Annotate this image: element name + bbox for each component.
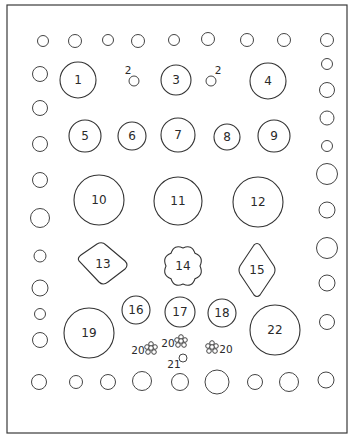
feature-22: 22	[250, 305, 300, 355]
perimeter-circle	[321, 34, 334, 47]
flower-cluster-20b: 20	[161, 335, 187, 349]
perimeter-circle	[103, 35, 114, 46]
perimeter-circle	[132, 35, 145, 48]
feature-label: 8	[223, 130, 231, 144]
feature-label: 18	[214, 306, 229, 320]
feature-7: 7	[161, 118, 195, 152]
feature-8: 8	[214, 124, 240, 150]
feature-17: 17	[165, 297, 195, 327]
feature-label: 11	[170, 194, 185, 208]
feature-label: 14	[175, 259, 190, 273]
feature-label: 2	[125, 64, 132, 76]
feature-circle	[206, 76, 216, 86]
perimeter-circle	[318, 372, 334, 388]
feature-1: 1	[60, 62, 96, 98]
perimeter-circle	[317, 164, 338, 185]
feature-12: 12	[233, 177, 283, 227]
feature-label: 16	[128, 303, 143, 317]
perimeter-circle	[320, 315, 335, 330]
feature-label: 19	[81, 326, 96, 340]
feature-circle	[129, 76, 139, 86]
perimeter-circle	[69, 35, 82, 48]
feature-label: 9	[270, 129, 278, 143]
perimeter-circle	[320, 111, 334, 125]
perimeter-circle	[205, 370, 229, 394]
perimeter-circle	[33, 67, 48, 82]
feature-18: 18	[208, 299, 236, 327]
perimeter-circle	[101, 375, 116, 390]
feature-label: 7	[174, 128, 182, 142]
perimeter-circle	[31, 209, 50, 228]
perimeter-circle	[35, 309, 46, 320]
feature-label: 20	[219, 343, 232, 355]
feature-label: 21	[167, 358, 180, 370]
perimeter-circle	[38, 36, 49, 47]
perimeter-circle	[319, 202, 335, 218]
perimeter-circle	[33, 101, 48, 116]
perimeter-circle	[33, 137, 48, 152]
feature-5: 5	[69, 120, 101, 152]
feature-11: 11	[154, 177, 202, 225]
diagram-canvas: 1232456789101112161718192122 131415 2020…	[0, 0, 363, 446]
flower-icon	[179, 339, 184, 344]
perimeter-circle	[32, 375, 47, 390]
feature-label: 13	[95, 257, 110, 271]
site-plan-diagram: 1232456789101112161718192122 131415 2020…	[0, 0, 363, 446]
feature-label: 12	[250, 195, 265, 209]
feature-label: 6	[128, 129, 136, 143]
feature-16: 16	[122, 296, 150, 324]
perimeter-circle	[202, 33, 215, 46]
perimeter-circle	[322, 59, 333, 70]
perimeter-circle	[32, 280, 48, 296]
feature-6: 6	[118, 122, 146, 150]
perimeter-circle	[278, 34, 291, 47]
feature-label: 20	[161, 337, 174, 349]
flower-cluster-20c: 20	[206, 341, 233, 355]
perimeter-circle	[33, 173, 48, 188]
flower-icon	[149, 346, 154, 351]
perimeter-circle	[33, 333, 48, 348]
perimeter-circle	[172, 374, 189, 391]
perimeter-circle	[169, 35, 180, 46]
feature-10: 10	[74, 175, 124, 225]
perimeter-circle	[70, 376, 83, 389]
feature-label: 10	[91, 193, 106, 207]
perimeter-circle	[133, 372, 152, 391]
feature-4: 4	[250, 63, 286, 99]
flower-icon	[210, 345, 215, 350]
feature-19: 19	[64, 308, 114, 358]
feature-label: 5	[81, 129, 89, 143]
feature-label: 15	[249, 263, 264, 277]
perimeter-circle	[241, 34, 254, 47]
feature-label: 2	[215, 64, 222, 76]
feature-label: 17	[172, 305, 187, 319]
feature-label: 22	[267, 323, 282, 337]
perimeter-circle	[317, 238, 338, 259]
perimeter-circle	[34, 250, 46, 262]
feature-label: 3	[172, 73, 180, 87]
perimeter-circle	[320, 83, 335, 98]
feature-label: 1	[74, 73, 82, 87]
perimeter-circle	[280, 373, 299, 392]
feature-3: 3	[161, 65, 191, 95]
feature-label: 4	[264, 74, 272, 88]
feature-9: 9	[258, 120, 290, 152]
feature-label: 20	[131, 344, 144, 356]
perimeter-circle	[322, 141, 333, 152]
perimeter-circle	[319, 275, 335, 291]
flower-cluster-20a: 20	[131, 342, 157, 356]
perimeter-circle	[248, 375, 263, 390]
